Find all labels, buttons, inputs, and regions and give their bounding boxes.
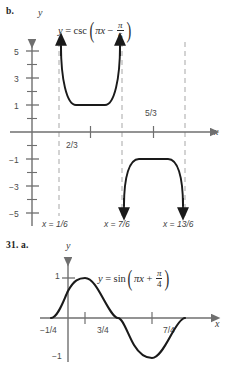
part-label-31a: 31. a. xyxy=(6,240,29,250)
csc-upper-branch xyxy=(61,46,120,105)
csc-plot-canvas xyxy=(0,0,227,240)
sin-plot-canvas xyxy=(0,250,227,366)
csc-lower-branch xyxy=(124,159,183,206)
